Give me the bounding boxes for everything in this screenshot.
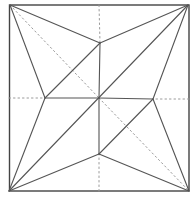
crease-pattern-diagram	[0, 0, 191, 198]
valley-fold-Tedge-T	[99, 5, 100, 43]
mountain-fold-T-C	[99, 43, 100, 98]
mountain-fold-BL-L	[9, 98, 45, 191]
mountain-fold-BR-R	[153, 99, 189, 191]
mountain-fold-TL-T	[10, 5, 100, 43]
mountain-fold-R-B	[99, 99, 153, 154]
valley-fold-TL-C	[10, 5, 99, 98]
mountain-fold-BL-B	[9, 154, 99, 191]
mountain-fold-TL-L	[10, 5, 45, 98]
mountain-fold-TR-T	[100, 5, 188, 43]
mountain-fold-BR-B	[99, 154, 189, 191]
mountain-fold-R-C	[99, 98, 153, 99]
valley-fold-C-BR	[99, 98, 189, 191]
mountain-fold-TR-R	[153, 5, 188, 99]
